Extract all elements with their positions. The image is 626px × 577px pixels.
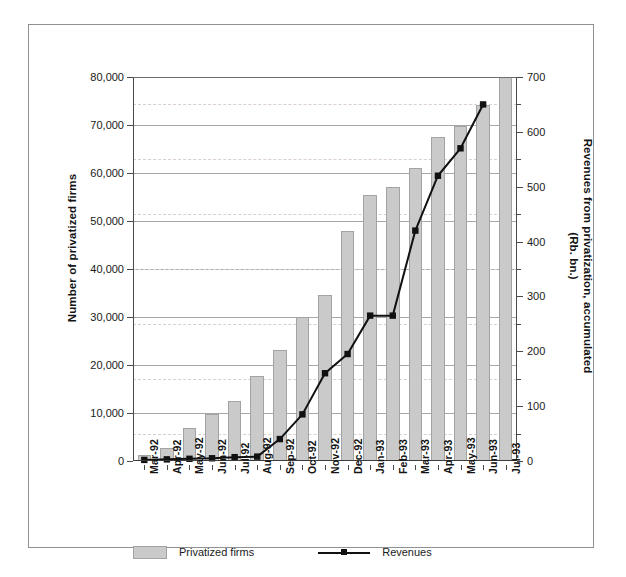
x-axis-tick — [461, 465, 462, 470]
x-axis-tick-label: Aug-92 — [261, 437, 273, 474]
x-axis-tick-label: Dec-92 — [352, 438, 364, 474]
x-axis-tick — [212, 465, 213, 470]
y-axis-right-tick-label: 500 — [517, 181, 545, 193]
revenues-data-point-marker — [277, 436, 283, 442]
plot-area: 010,00020,00030,00040,00050,00060,00070,… — [133, 77, 517, 461]
y-axis-right-tick-label: 300 — [517, 290, 545, 302]
legend-item-revenues: Revenues — [318, 546, 432, 558]
x-axis-tick — [280, 465, 281, 470]
legend-item-privatized-firms: Privatized firms — [133, 546, 254, 559]
y-axis-right-tick-label: 200 — [517, 345, 545, 357]
x-axis-tick — [144, 465, 145, 470]
x-axis-tick-label: Jan-93 — [374, 440, 386, 474]
x-axis-tick-label: May-92 — [193, 437, 205, 474]
x-axis-tick-label: Jul-93 — [510, 442, 522, 474]
revenues-data-point-marker — [254, 453, 260, 459]
revenues-data-point-marker — [164, 456, 170, 462]
revenues-data-point-marker — [344, 351, 350, 357]
revenues-data-point-marker — [480, 101, 486, 107]
revenues-data-point-marker — [231, 454, 237, 460]
chart-legend: Privatized firms Revenues — [133, 541, 533, 563]
y-axis-right-title-line2: (Rb. bn.) — [568, 232, 580, 280]
revenues-line-path — [144, 104, 483, 459]
y-axis-left-title: Number of privatized firms — [65, 83, 79, 413]
x-axis-tick — [438, 465, 439, 470]
y-axis-left-tick-label: 0 — [118, 455, 133, 467]
x-axis-tick — [257, 465, 258, 470]
x-axis-tick-label: Feb-93 — [397, 439, 409, 474]
x-axis-tick — [189, 465, 190, 470]
x-axis-tick — [506, 465, 507, 470]
y-axis-right-title: Revenues from privatization, accumulated… — [567, 91, 595, 421]
x-axis-tick-label: Mar-92 — [148, 439, 160, 474]
revenues-data-point-marker — [141, 457, 147, 463]
x-axis-tick — [348, 465, 349, 470]
x-axis-tick-label: Sep-92 — [284, 438, 296, 474]
y-axis-left-tick-label: 10,000 — [90, 407, 133, 419]
x-axis-tick — [483, 465, 484, 470]
y-axis-right-tick-label: 700 — [517, 71, 545, 83]
x-axis-tick — [302, 465, 303, 470]
x-axis-tick-label: Nov-92 — [329, 438, 341, 474]
x-axis-tick-label: Oct-92 — [306, 440, 318, 474]
x-axis-tick-label: Jun-92 — [216, 439, 228, 474]
x-axis-tick — [167, 465, 168, 470]
x-axis-tick — [235, 465, 236, 470]
revenues-data-point-marker — [412, 227, 418, 233]
x-axis-tick-label: Apr-93 — [442, 440, 454, 474]
revenues-data-point-marker — [390, 312, 396, 318]
y-axis-right-title-line1: Revenues from privatization, accumulated — [582, 139, 594, 374]
y-axis-right-tick-label: 100 — [517, 400, 545, 412]
revenues-data-point-marker — [322, 370, 328, 376]
x-axis-tick-label: May-93 — [465, 437, 477, 474]
legend-line-marker-icon — [318, 547, 370, 557]
x-axis-tick — [370, 465, 371, 470]
legend-swatch-bar-icon — [133, 546, 167, 559]
x-axis-tick-label: Apr-92 — [171, 440, 183, 474]
y-axis-left-tick-label: 50,000 — [90, 215, 133, 227]
figure-frame: Number of privatized firms Revenues from… — [28, 24, 594, 548]
y-axis-right-tick-label: 400 — [517, 236, 545, 248]
legend-label-revenues: Revenues — [382, 546, 432, 558]
y-axis-left-tick-label: 40,000 — [90, 263, 133, 275]
x-axis-tick — [325, 465, 326, 470]
y-axis-left-tick-label: 80,000 — [90, 71, 133, 83]
legend-label-privatized-firms: Privatized firms — [179, 546, 254, 558]
revenues-data-point-marker — [186, 456, 192, 462]
revenues-data-point-marker — [209, 455, 215, 461]
y-axis-right-tick-label: 600 — [517, 126, 545, 138]
line-series-revenues — [133, 77, 517, 461]
x-axis-tick — [393, 465, 394, 470]
y-axis-left-tick-label: 30,000 — [90, 311, 133, 323]
revenues-data-point-marker — [457, 145, 463, 151]
revenues-data-point-marker — [367, 312, 373, 318]
x-axis-tick — [415, 465, 416, 470]
x-axis-tick-label: Jun-93 — [487, 439, 499, 474]
y-axis-left-tick-label: 20,000 — [90, 359, 133, 371]
x-axis-labels: Mar-92Apr-92May-92Jun-92Jul-92Aug-92Sep-… — [133, 465, 517, 535]
x-axis-tick-label: Jul-92 — [239, 442, 251, 474]
y-axis-left-tick-label: 60,000 — [90, 167, 133, 179]
revenues-data-point-marker — [299, 411, 305, 417]
revenues-data-point-marker — [435, 173, 441, 179]
y-axis-left-tick-label: 70,000 — [90, 119, 133, 131]
x-axis-tick-label: Mar-93 — [419, 439, 431, 474]
